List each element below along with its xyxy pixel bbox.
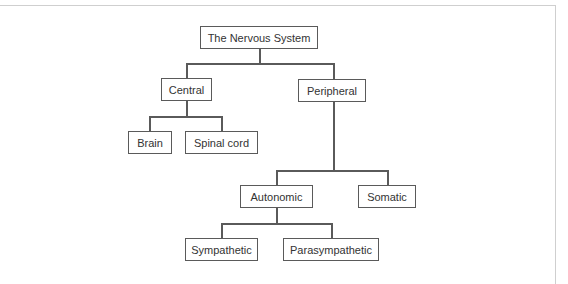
connector-to-central xyxy=(186,63,188,78)
frame-top-border xyxy=(0,5,556,6)
node-somatic: Somatic xyxy=(358,185,416,208)
connector-to-spinal-cord xyxy=(221,116,223,131)
connector-to-somatic xyxy=(387,170,389,185)
connector-peripheral-branch xyxy=(276,170,388,172)
frame-right-border xyxy=(555,5,556,284)
node-sympathetic: Sympathetic xyxy=(185,238,258,261)
connector-to-sympathetic xyxy=(221,223,223,238)
node-spinal-cord: Spinal cord xyxy=(185,131,258,154)
connector-central-down xyxy=(186,101,188,116)
connector-peripheral-down xyxy=(333,102,335,170)
connector-to-peripheral xyxy=(333,63,335,79)
connector-to-autonomic xyxy=(276,170,278,185)
node-autonomic: Autonomic xyxy=(240,185,313,208)
node-brain: Brain xyxy=(128,131,172,154)
connector-root-down xyxy=(259,49,261,63)
connector-root-branch xyxy=(186,63,334,65)
connector-to-parasympathetic xyxy=(331,223,333,238)
connector-autonomic-down xyxy=(276,208,278,223)
connector-central-branch xyxy=(149,116,222,118)
node-parasympathetic: Parasympathetic xyxy=(283,238,379,261)
connector-to-brain xyxy=(149,116,151,131)
node-peripheral: Peripheral xyxy=(298,79,366,102)
connector-autonomic-branch xyxy=(221,223,332,225)
node-nervous-system: The Nervous System xyxy=(200,26,318,49)
node-central: Central xyxy=(161,78,212,101)
